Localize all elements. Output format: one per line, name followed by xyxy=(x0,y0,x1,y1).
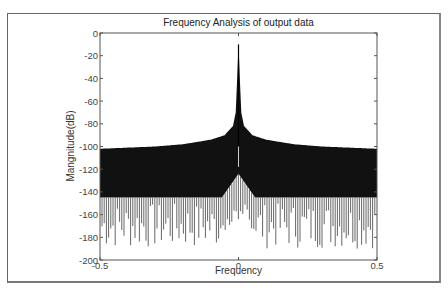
y-tick-label: -120 xyxy=(79,164,98,175)
x-axis-label: Frequency xyxy=(100,265,377,276)
y-tick-label: -100 xyxy=(79,141,98,152)
y-tick-label: -60 xyxy=(84,96,98,107)
y-tick-label: -40 xyxy=(84,73,98,84)
y-tick-label: -20 xyxy=(84,50,98,61)
y-tick-label: -160 xyxy=(79,209,98,220)
y-tick-label: -180 xyxy=(79,232,98,243)
y-axis-label: Mangnitude(dB) xyxy=(65,110,76,181)
y-tick-label: 0 xyxy=(93,28,98,39)
y-tick-label: -140 xyxy=(79,186,98,197)
y-tick-label: -80 xyxy=(84,118,98,129)
